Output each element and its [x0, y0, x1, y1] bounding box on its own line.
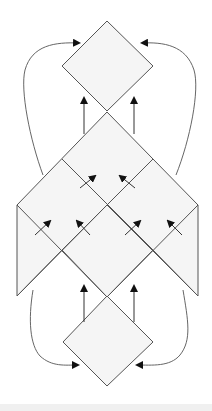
bottom-strip — [0, 404, 212, 411]
diagram-canvas — [0, 0, 212, 411]
bottom-diamond — [63, 296, 153, 386]
top-diamond — [62, 21, 153, 111]
curved-arrow-left-bottom — [30, 290, 78, 365]
nodes-layer — [17, 21, 198, 386]
curved-arrow-right-bottom — [137, 290, 188, 365]
